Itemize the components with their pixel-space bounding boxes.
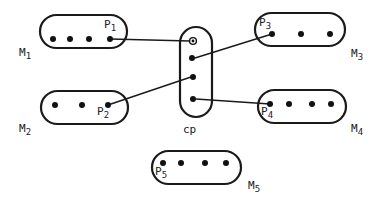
pin-label-p2: P2 — [97, 106, 109, 120]
module-label-m3: M3 — [351, 48, 363, 62]
connection-p1-cp — [110, 39, 190, 41]
module-label-m4: M4 — [351, 123, 363, 137]
pin-label-p1: P1 — [104, 19, 116, 33]
cp-label: cp — [183, 124, 196, 135]
module-m2 — [41, 91, 128, 124]
connection-p3-cp — [195, 34, 272, 58]
module-label-m2: M2 — [19, 123, 31, 137]
pin-label-p3: P3 — [259, 17, 271, 31]
diagram-canvas — [0, 0, 383, 201]
pin-p3 — [269, 31, 275, 37]
pin-p1 — [107, 36, 113, 42]
module-label-m5: M5 — [248, 180, 260, 194]
connection-p2-cp — [108, 77, 191, 105]
module-label-m1: M1 — [19, 47, 31, 61]
pin-label-p4: P4 — [261, 106, 273, 120]
pin-label-p5: P5 — [155, 166, 167, 180]
